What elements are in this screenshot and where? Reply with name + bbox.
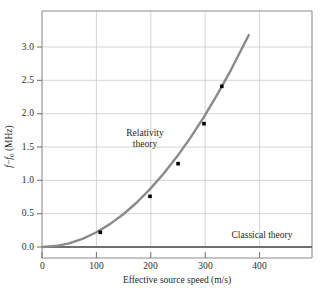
xtick-label-400: 400 [246, 261, 273, 271]
data-point-marker [148, 195, 152, 199]
data-point-marker [99, 231, 103, 235]
xtick-label-100: 100 [83, 261, 110, 271]
ytick-label-3.0: 3.0 [0, 42, 34, 52]
ytick-label-0.0: 0.0 [0, 242, 34, 252]
x-axis-title: Effective source speed (m/s) [42, 275, 312, 285]
relativity-theory-label: Relativity theory [110, 128, 180, 150]
relativity-theory-label-line1: Relativity [126, 128, 163, 138]
chart-figure: 3.0 2.5 2.0 1.5 1.0 0.5 0.0 0 100 200 30… [0, 0, 329, 296]
ytick-label-2.5: 2.5 [0, 75, 34, 85]
y-axis-title: f−f0 (MHz) [4, 106, 17, 186]
xtick-label-200: 200 [137, 261, 164, 271]
ytick-label-0.5: 0.5 [0, 208, 34, 218]
y-axis-title-units: (MHz) [4, 125, 14, 151]
xtick-label-300: 300 [192, 261, 219, 271]
data-point-marker [176, 162, 180, 166]
data-point-marker [202, 122, 206, 126]
data-point-marker [220, 85, 224, 89]
xtick-label-0: 0 [38, 261, 47, 271]
y-axis-title-minus: − [4, 160, 14, 165]
y-axis-title-subscript: 0 [8, 153, 16, 157]
classical-theory-label: Classical theory [218, 230, 306, 241]
relativity-theory-label-line2: theory [133, 139, 157, 149]
